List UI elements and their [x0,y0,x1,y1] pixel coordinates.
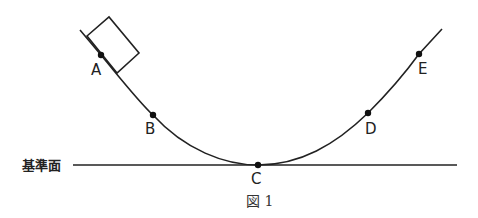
figure-diagram: A B C D E 基準面 図 1 [0,0,478,218]
point-b-label: B [145,120,155,138]
point-e-dot [416,51,422,57]
reference-plane-label: 基準面 [21,158,61,173]
figure-caption: 図 1 [246,193,273,209]
point-c-dot [255,162,261,168]
point-c-label: C [251,170,261,188]
point-d-label: D [365,120,377,138]
point-e-label: E [418,60,427,78]
point-d-dot [365,110,371,116]
point-b-dot [150,112,156,118]
point-a-dot [98,52,104,58]
point-a-label: A [91,61,102,79]
